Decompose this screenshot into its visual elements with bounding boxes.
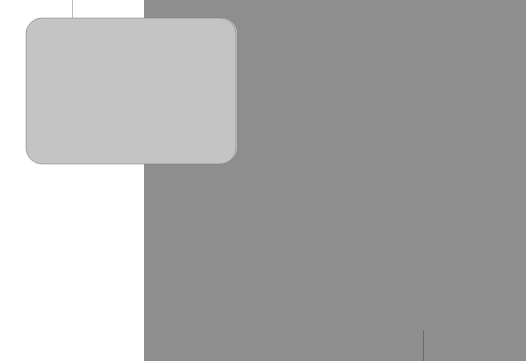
materials-illustration — [0, 0, 526, 361]
